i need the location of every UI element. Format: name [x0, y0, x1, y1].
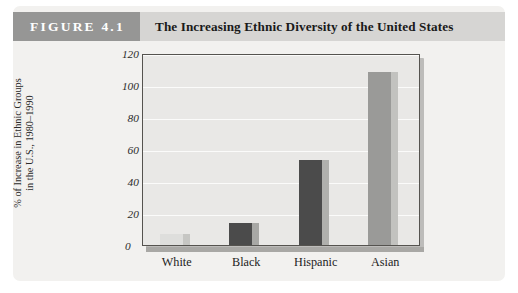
bar-face — [299, 160, 322, 245]
y-axis-tick-label-zero: 0 — [125, 240, 131, 252]
y-axis-tick-label: 60 — [128, 144, 139, 156]
chart-region: % of Increase in Ethnic Groups in the U.… — [13, 41, 505, 281]
bar-slot — [352, 55, 421, 245]
bar-face — [229, 223, 252, 245]
bar-side — [391, 72, 398, 245]
bar-face — [160, 234, 183, 245]
y-axis-tick-label: 80 — [128, 112, 139, 124]
figure-number-label: FIGURE 4.1 — [28, 19, 125, 35]
bar — [229, 223, 259, 245]
x-axis-tick-label-white: White — [162, 255, 192, 270]
x-axis-baseline — [146, 247, 424, 252]
figure-title: The Increasing Ethnic Diversity of the U… — [140, 19, 453, 35]
y-axis-title: % of Increase in Ethnic Groups in the U.… — [7, 63, 41, 223]
y-axis-tick-label: 40 — [128, 176, 139, 188]
figure-screenshot: FIGURE 4.1 The Increasing Ethnic Diversi… — [0, 0, 518, 293]
bar — [299, 160, 329, 245]
y-axis-tick-label: 120 — [122, 48, 139, 60]
y-axis-title-line-1: % of Increase in Ethnic Groups — [12, 78, 24, 208]
bar-side — [322, 160, 329, 245]
figure-title-band: The Increasing Ethnic Diversity of the U… — [140, 12, 505, 41]
y-axis-tick-label: 20 — [128, 208, 139, 220]
bar — [368, 72, 398, 245]
bar-face — [368, 72, 391, 245]
x-axis-tick-label-asian: Asian — [371, 255, 399, 270]
plot-area — [142, 54, 420, 246]
y-axis-tick-label: 100 — [122, 80, 139, 92]
x-axis-tick-label-hispanic: Hispanic — [294, 255, 337, 270]
bar-slot — [143, 55, 213, 245]
figure-number-band: FIGURE 4.1 — [13, 12, 140, 41]
bar-side — [252, 223, 259, 245]
x-axis-tick-label-black: Black — [232, 255, 260, 270]
x-axis-tick-labels: WhiteBlackHispanicAsian — [142, 255, 420, 275]
bar-side — [183, 234, 190, 245]
y-axis-title-line-2: in the U.S., 1980–1990 — [24, 95, 36, 191]
bar — [160, 234, 190, 245]
bar-slot — [213, 55, 283, 245]
figure-header: FIGURE 4.1 The Increasing Ethnic Diversi… — [13, 12, 505, 41]
bar-slot — [282, 55, 352, 245]
bars-layer — [143, 55, 419, 245]
figure-card: FIGURE 4.1 The Increasing Ethnic Diversi… — [13, 6, 505, 281]
y-axis-tick-labels: 20406080100120 — [109, 54, 139, 246]
